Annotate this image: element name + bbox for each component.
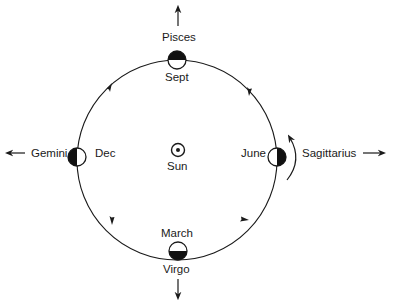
orbit-direction-arrows — [107, 83, 253, 225]
sun-label: Sun — [167, 161, 187, 173]
body-june-icon — [268, 148, 286, 166]
orbit-arrow-icon — [110, 216, 115, 225]
month-label-sept: Sept — [165, 72, 189, 84]
body-dec-icon — [68, 148, 86, 166]
orbit-arrow-icon — [107, 83, 113, 92]
constellation-label-pisces: Pisces — [162, 32, 196, 44]
month-label-march: March — [161, 228, 193, 240]
constellation-label-gemini: Gemini — [31, 148, 67, 160]
constellation-label-sagittarius: Sagittarius — [302, 148, 356, 160]
body-march-icon — [169, 242, 187, 260]
month-label-dec: Dec — [95, 148, 115, 160]
sun-symbol-icon — [172, 144, 185, 157]
constellation-label-virgo: Virgo — [163, 264, 190, 276]
orbit-arrow-icon — [247, 87, 252, 96]
orbit-arrow-icon — [240, 217, 249, 222]
orbit-diagram: Pisces Sept Gemini Dec Sun June Sagittar… — [0, 0, 395, 300]
body-sept-icon — [168, 51, 186, 69]
rotation-arrow-icon — [287, 138, 296, 180]
month-label-june: June — [241, 148, 266, 160]
